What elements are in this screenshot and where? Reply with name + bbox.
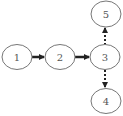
- flow-diagram: 1 2 3 5 4: [0, 0, 123, 116]
- node-3-label: 3: [102, 52, 108, 63]
- node-2-label: 2: [57, 52, 63, 63]
- node-1: 1: [2, 45, 32, 70]
- node-3: 3: [90, 45, 120, 70]
- node-2: 2: [45, 45, 75, 70]
- node-4: 4: [91, 89, 121, 114]
- node-1-label: 1: [14, 52, 20, 63]
- node-5: 5: [91, 1, 121, 27]
- node-4-label: 4: [103, 96, 109, 107]
- node-5-label: 5: [103, 9, 109, 20]
